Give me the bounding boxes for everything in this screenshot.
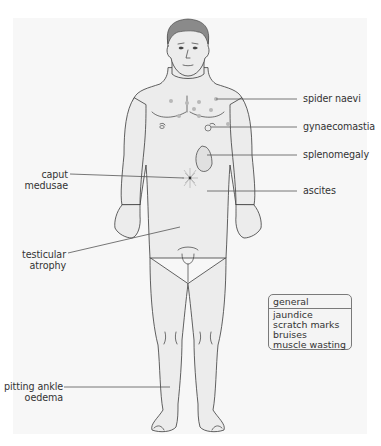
label-pitting-ankle-oedema: pitting ankle oedema [4,381,63,403]
label-testicular-atrophy-line1: testicular [22,249,66,260]
list-item: muscle wasting [273,340,347,350]
general-findings-box: general jaundice scratch marks bruises m… [268,294,352,350]
label-ascites: ascites [303,185,336,196]
label-gynaecomastia: gynaecomastia [303,121,375,132]
general-findings-list: jaundice scratch marks bruises muscle wa… [269,309,351,350]
label-pitting-ankle-oedema-line1: pitting ankle [4,381,63,392]
label-testicular-atrophy: testicular atrophy [22,249,66,271]
right-hand [236,205,261,238]
label-caput-medusae: caput medusae [25,169,69,191]
left-hand [115,205,140,238]
left-leg [150,258,188,432]
label-splenomegaly: splenomegaly [303,149,369,160]
label-pitting-ankle-oedema-line2: oedema [4,392,63,403]
general-findings-title: general [269,295,351,309]
label-caput-medusae-line2: medusae [25,180,69,191]
right-leg [188,258,226,432]
torso [124,68,252,258]
label-caput-medusae-line1: caput [25,169,69,180]
label-testicular-atrophy-line2: atrophy [22,260,66,271]
label-spider-naevi: spider naevi [303,93,361,104]
body-figure [0,0,381,446]
